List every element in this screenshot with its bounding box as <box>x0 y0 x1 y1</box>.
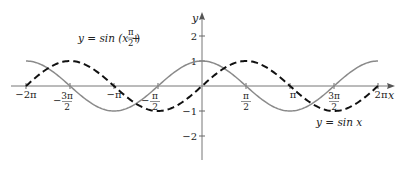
solid-label-suffix: ) <box>136 32 140 44</box>
y-tick-label: −2 <box>182 131 197 142</box>
x-tick-label-numerator: π <box>243 91 249 101</box>
x-tick-label-numerator: 3π <box>328 91 340 101</box>
solid-curve-label: y = sin (x + π 2 ) <box>77 27 140 48</box>
x-tick-label-numerator: π <box>152 91 158 101</box>
solid-label-num: π <box>128 27 134 37</box>
x-tick-label: 2π <box>375 89 388 100</box>
solid-label-den: 2 <box>128 38 133 48</box>
sine-cosine-plot: −2π−3π2−π−π2π2π3π22π 21−1−2 y x y = sin … <box>0 0 400 169</box>
x-tick-label: −2π <box>15 89 37 100</box>
y-tick-label: −1 <box>182 106 197 117</box>
x-tick-label: π <box>290 89 297 100</box>
x-tick-label-sign: − <box>53 95 61 106</box>
x-axis-label: x <box>388 89 395 102</box>
x-tick-label-denominator: 2 <box>64 102 70 112</box>
y-tick-label: 2 <box>191 31 197 42</box>
x-tick-label-denominator: 2 <box>243 102 249 112</box>
y-axis-label: y <box>191 12 199 25</box>
y-axis-arrow-icon <box>199 12 205 20</box>
x-tick-label-numerator: 3π <box>61 91 73 101</box>
dashed-curve-label: y = sin x <box>315 116 362 128</box>
axes <box>11 12 395 160</box>
